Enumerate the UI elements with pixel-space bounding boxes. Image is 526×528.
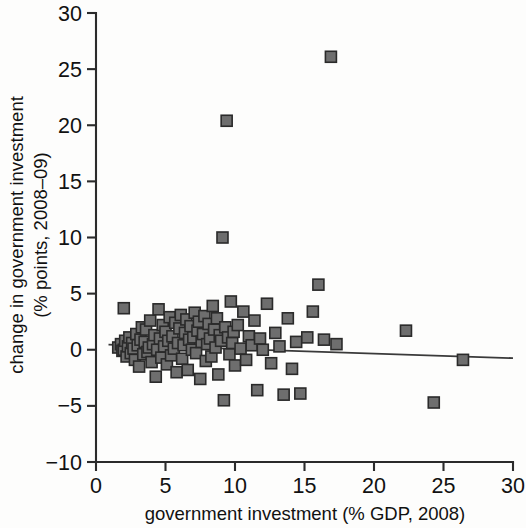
y-axis-title-line2: (% points, 2008–09) — [30, 152, 51, 318]
data-point-marker — [274, 341, 285, 352]
y-tick-label: −10 — [46, 451, 83, 475]
x-tick-label: 10 — [223, 474, 247, 498]
data-point-marker — [266, 358, 277, 369]
y-tick-label: 30 — [58, 2, 82, 26]
data-point-marker — [318, 334, 329, 345]
y-tick-label: 25 — [58, 58, 82, 82]
data-point-marker — [153, 304, 164, 315]
data-point-marker — [182, 364, 193, 375]
x-tick-label: 0 — [90, 474, 102, 498]
data-point-marker — [257, 344, 268, 355]
data-point-marker — [235, 343, 246, 354]
x-tick-label: 5 — [160, 474, 172, 498]
data-point-marker — [238, 306, 249, 317]
data-point-marker — [241, 354, 252, 365]
y-tick-label: −5 — [57, 394, 82, 418]
y-tick-label: 0 — [70, 338, 82, 362]
data-point-marker — [252, 385, 263, 396]
data-point-marker — [428, 397, 439, 408]
scatter-plot-figure: −10−5051015202530 051015202530 change in… — [0, 0, 526, 528]
data-point-marker — [291, 336, 302, 347]
data-point-marker — [224, 349, 235, 360]
data-point-marker — [213, 369, 224, 380]
data-point-marker — [195, 373, 206, 384]
data-point-marker — [302, 332, 313, 343]
data-point-marker — [282, 313, 293, 324]
data-point-marker — [457, 354, 468, 365]
data-point-marker — [307, 306, 318, 317]
data-point-marker — [145, 315, 156, 326]
data-point-marker — [221, 115, 232, 126]
y-tick-label: 20 — [58, 114, 82, 138]
data-point-marker — [230, 360, 241, 371]
data-point-marker — [331, 339, 342, 350]
data-point-marker — [134, 361, 145, 372]
data-point-marker — [217, 232, 228, 243]
data-point-marker — [255, 333, 266, 344]
data-point-marker — [270, 327, 281, 338]
data-point-marker — [150, 371, 161, 382]
x-tick-label: 20 — [362, 474, 386, 498]
data-point-marker — [171, 367, 182, 378]
chart-canvas: −10−5051015202530 051015202530 change in… — [0, 0, 526, 528]
data-point-marker — [218, 395, 229, 406]
y-tick-label: 15 — [58, 170, 82, 194]
data-point-marker — [249, 315, 260, 326]
y-tick-label: 5 — [70, 282, 82, 306]
y-tick-label: 10 — [58, 226, 82, 250]
data-point-marker — [400, 325, 411, 336]
data-point-marker — [225, 296, 236, 307]
data-point-marker — [278, 389, 289, 400]
data-point-marker — [232, 320, 243, 331]
x-tick-label: 30 — [501, 474, 525, 498]
data-point-marker — [118, 303, 129, 314]
data-point-marker — [207, 300, 218, 311]
data-point-marker — [286, 363, 297, 374]
data-point-marker — [295, 388, 306, 399]
x-axis-title: government investment (% GDP, 2008) — [145, 503, 465, 524]
data-point-marker — [313, 279, 324, 290]
data-point-marker — [325, 51, 336, 62]
y-axis-title-line1: change in government investment — [6, 96, 27, 374]
data-point-marker — [261, 298, 272, 309]
x-tick-label: 25 — [432, 474, 456, 498]
x-tick-label: 15 — [293, 474, 317, 498]
